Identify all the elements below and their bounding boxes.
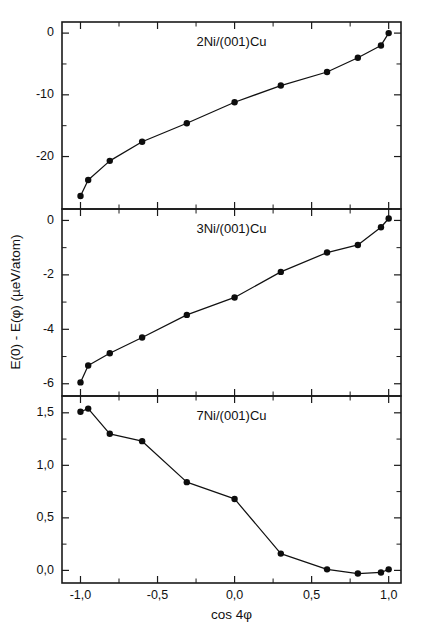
data-point xyxy=(139,334,145,340)
data-point xyxy=(77,409,83,415)
y-tick-label: -10 xyxy=(36,87,54,101)
data-point xyxy=(324,566,330,572)
panel-frame xyxy=(62,209,401,396)
panel-frame xyxy=(62,22,401,209)
data-point xyxy=(378,224,384,230)
panel-bottom: 1,51,00,50,07Ni/(001)Cu xyxy=(37,396,401,583)
x-tick-label: 1,0 xyxy=(380,588,397,602)
data-point xyxy=(355,55,361,61)
data-point xyxy=(278,269,284,275)
y-tick-label: 0 xyxy=(47,213,54,227)
y-tick-label: 0 xyxy=(47,25,54,39)
data-point xyxy=(231,496,237,502)
y-tick-label: 1,0 xyxy=(37,458,54,472)
y-tick-label: 0,0 xyxy=(37,563,54,577)
x-tick-label: 0,5 xyxy=(303,588,320,602)
data-point xyxy=(278,82,284,88)
data-point xyxy=(184,312,190,318)
x-tick-label: -0,5 xyxy=(147,588,169,602)
data-point xyxy=(378,42,384,48)
data-point xyxy=(231,294,237,300)
x-tick-label: -1,0 xyxy=(70,588,92,602)
x-axis-labels: -1,0-0,50,00,51,0 xyxy=(70,588,398,602)
data-point xyxy=(184,479,190,485)
y-tick-label: 0,5 xyxy=(37,510,54,524)
panel-title-bottom: 7Ni/(001)Cu xyxy=(196,408,266,423)
panel-title-top: 2Ni/(001)Cu xyxy=(196,34,266,49)
x-axis-title: cos 4φ xyxy=(211,607,252,622)
data-point xyxy=(107,350,113,356)
x-tick-label: 0,0 xyxy=(226,588,243,602)
data-point xyxy=(324,69,330,75)
data-point xyxy=(324,249,330,255)
data-point xyxy=(355,570,361,576)
data-point xyxy=(77,379,83,385)
data-point xyxy=(378,569,384,575)
data-point xyxy=(355,242,361,248)
y-tick-label: -20 xyxy=(36,149,54,163)
data-point xyxy=(139,438,145,444)
data-point xyxy=(85,405,91,411)
y-tick-label: 1,5 xyxy=(37,405,54,419)
y-tick-label: -6 xyxy=(43,376,54,390)
panel-top: 0-10-202Ni/(001)Cu xyxy=(36,22,401,209)
data-point xyxy=(77,193,83,199)
data-point xyxy=(231,99,237,105)
data-point xyxy=(385,30,391,36)
data-point xyxy=(385,215,391,221)
y-tick-label: -2 xyxy=(43,267,54,281)
y-axis-title: E(0) - E(φ) (µeV/atom) xyxy=(8,234,23,369)
figure-container: 0-10-202Ni/(001)Cu0-2-4-63Ni/(001)Cu1,51… xyxy=(0,0,425,637)
data-point xyxy=(184,120,190,126)
panel-frame xyxy=(62,396,401,583)
data-point xyxy=(278,550,284,556)
data-line-bottom xyxy=(80,409,388,574)
data-point xyxy=(85,177,91,183)
data-line-top xyxy=(80,33,388,196)
data-point xyxy=(107,431,113,437)
data-point xyxy=(85,362,91,368)
data-point xyxy=(139,139,145,145)
y-tick-label: -4 xyxy=(43,322,54,336)
panel-middle: 0-2-4-63Ni/(001)Cu xyxy=(43,209,401,396)
data-point xyxy=(385,566,391,572)
multi-panel-chart: 0-10-202Ni/(001)Cu0-2-4-63Ni/(001)Cu1,51… xyxy=(0,0,425,637)
data-point xyxy=(107,158,113,164)
panel-title-middle: 3Ni/(001)Cu xyxy=(196,221,266,236)
